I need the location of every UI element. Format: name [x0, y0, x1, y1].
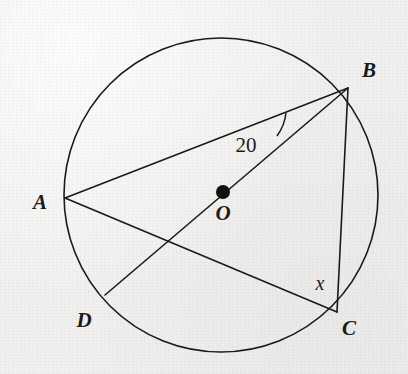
chord-ab	[65, 88, 348, 198]
center-point-label: O	[215, 203, 230, 224]
point-label-a: A	[33, 192, 47, 213]
chord-bc	[337, 88, 348, 312]
geometry-figure: O A B C D 20 x	[0, 0, 408, 374]
point-label-d: D	[76, 310, 91, 331]
angle-measure-bca: x	[316, 273, 325, 293]
angle-arc-abd	[277, 113, 286, 136]
point-label-b: B	[362, 60, 376, 81]
point-label-c: C	[342, 318, 356, 339]
angle-measure-abd: 20	[236, 135, 257, 156]
center-point-dot	[216, 185, 230, 199]
